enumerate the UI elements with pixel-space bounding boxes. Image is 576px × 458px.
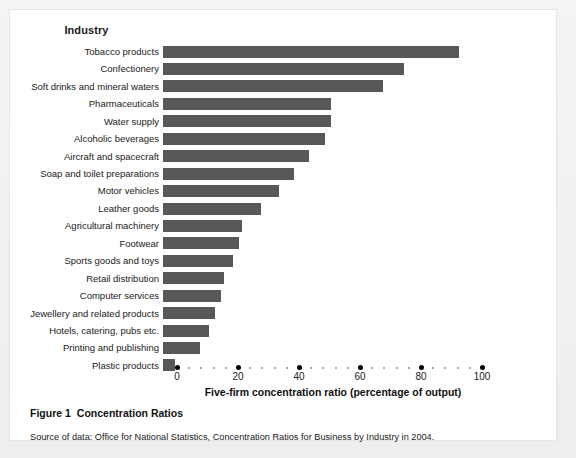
bar <box>163 80 383 92</box>
bar-category-label: Retail distribution <box>10 274 163 284</box>
bar <box>163 46 459 58</box>
bar-row: Water supply <box>10 113 556 130</box>
bar-category-label: Alcoholic beverages <box>10 134 163 144</box>
x-tick-minor <box>383 367 385 369</box>
bar <box>163 203 261 215</box>
bar-category-label: Footwear <box>10 239 163 249</box>
bar-row: Tobacco products <box>10 43 556 60</box>
bar-category-label: Soft drinks and mineral waters <box>10 82 163 92</box>
figure-caption: Figure 1Concentration Ratios <box>30 407 550 419</box>
bar <box>163 63 404 75</box>
bar-track <box>163 130 556 147</box>
bar-row: Jewellery and related products <box>10 305 556 322</box>
bar <box>163 185 279 197</box>
x-tick-minor <box>274 367 276 369</box>
x-axis-title: Five-firm concentration ratio (percentag… <box>163 386 503 398</box>
x-tick-minor <box>188 367 190 369</box>
figure-title: Concentration Ratios <box>77 407 183 419</box>
bar-track <box>163 95 556 112</box>
x-tick-major <box>358 365 363 370</box>
bar-row: Computer services <box>10 287 556 304</box>
x-tick-minor <box>371 367 373 369</box>
x-tick-label: 0 <box>174 371 180 382</box>
bar-category-label: Aircraft and spacecraft <box>10 152 163 162</box>
bar-track <box>163 43 556 60</box>
bar-row: Soft drinks and mineral waters <box>10 78 556 95</box>
x-tick-major <box>236 365 241 370</box>
bar-category-label: Tobacco products <box>10 47 163 57</box>
bar-category-label: Hotels, catering, pubs etc. <box>10 326 163 336</box>
x-tick-major <box>419 365 424 370</box>
bar <box>163 220 242 232</box>
bar <box>163 307 215 319</box>
x-tick-minor <box>457 367 459 369</box>
bar-row: Hotels, catering, pubs etc. <box>10 322 556 339</box>
bar-track <box>163 235 556 252</box>
bar <box>163 255 233 267</box>
x-tick-label: 60 <box>354 371 365 382</box>
x-tick-minor <box>286 367 288 369</box>
bar <box>163 272 224 284</box>
x-tick-minor <box>249 367 251 369</box>
bar-row: Motor vehicles <box>10 183 556 200</box>
bar-category-label: Printing and publishing <box>10 343 163 353</box>
bar <box>163 168 294 180</box>
bar-track <box>163 113 556 130</box>
x-tick-minor <box>444 367 446 369</box>
bar-category-label: Water supply <box>10 117 163 127</box>
bar-row: Soap and toilet preparations <box>10 165 556 182</box>
x-tick-minor <box>335 367 337 369</box>
page-sheet: Industry Tobacco productsConfectionerySo… <box>10 10 556 440</box>
bar <box>163 150 309 162</box>
source-note: Source of data: Office for National Stat… <box>30 432 550 442</box>
bar-category-label: Leather goods <box>10 204 163 214</box>
bar-track <box>163 252 556 269</box>
bar-track <box>163 305 556 322</box>
bar-category-label: Confectionery <box>10 64 163 74</box>
caption-block: Figure 1Concentration Ratios Source of d… <box>30 407 550 442</box>
x-tick-label: 80 <box>415 371 426 382</box>
x-tick-minor <box>225 367 227 369</box>
bar-category-label: Computer services <box>10 291 163 301</box>
x-axis: 020406080100 Five-firm concentration rat… <box>10 362 556 412</box>
bar <box>163 98 331 110</box>
bar <box>163 133 325 145</box>
x-tick-major <box>175 365 180 370</box>
x-tick-minor <box>469 367 471 369</box>
bar-track <box>163 217 556 234</box>
bar-category-label: Sports goods and toys <box>10 256 163 266</box>
bar-row: Pharmaceuticals <box>10 95 556 112</box>
x-tick-minor <box>396 367 398 369</box>
bar <box>163 342 200 354</box>
x-tick-label: 20 <box>232 371 243 382</box>
category-axis-heading: Industry <box>10 24 163 36</box>
x-tick-minor <box>213 367 215 369</box>
bar-category-label: Soap and toilet preparations <box>10 169 163 179</box>
bar <box>163 325 209 337</box>
bar <box>163 115 331 127</box>
x-tick-minor <box>310 367 312 369</box>
bar-row: Agricultural machinery <box>10 217 556 234</box>
figure-number: Figure 1 <box>30 407 71 419</box>
bar-track <box>163 148 556 165</box>
bar-track <box>163 200 556 217</box>
bar-row: Confectionery <box>10 60 556 77</box>
x-tick-minor <box>261 367 263 369</box>
x-tick-minor <box>322 367 324 369</box>
x-tick-major <box>480 365 485 370</box>
bar-track <box>163 322 556 339</box>
x-tick-major <box>297 365 302 370</box>
bar <box>163 290 221 302</box>
bar-row: Footwear <box>10 235 556 252</box>
bar-track <box>163 165 556 182</box>
bar-category-label: Motor vehicles <box>10 186 163 196</box>
bar-category-label: Pharmaceuticals <box>10 99 163 109</box>
x-tick-label: 40 <box>293 371 304 382</box>
x-tick-minor <box>200 367 202 369</box>
bar-row: Printing and publishing <box>10 339 556 356</box>
bar-row: Aircraft and spacecraft <box>10 148 556 165</box>
bar-rows: Tobacco productsConfectionerySoft drinks… <box>10 43 556 374</box>
x-axis-ticks: 020406080100 <box>10 362 556 374</box>
bar-row: Retail distribution <box>10 270 556 287</box>
bar-track <box>163 183 556 200</box>
